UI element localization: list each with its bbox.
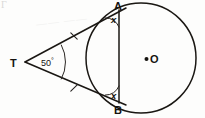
geometry-diagram-canvas: T A B O 50° x x xyxy=(0,0,205,118)
angle-arc-t xyxy=(61,45,65,79)
circle-shape xyxy=(86,3,196,113)
label-angle-a: x xyxy=(110,14,117,25)
label-point-b: B xyxy=(114,104,122,116)
label-angle-t-value: 50° xyxy=(41,57,54,68)
angle-t-number: 50 xyxy=(41,58,51,68)
geometry-figure: Γ —— —— T A B O 50° x xyxy=(0,0,205,118)
label-point-t: T xyxy=(10,57,17,69)
centre-dot-icon xyxy=(145,57,149,61)
equal-tick-mark-tb xyxy=(71,85,77,91)
angle-t-degree-symbol: ° xyxy=(51,57,54,64)
label-centre-o: O xyxy=(150,53,159,65)
label-angle-b: x xyxy=(110,90,117,101)
label-point-a: A xyxy=(114,0,122,12)
